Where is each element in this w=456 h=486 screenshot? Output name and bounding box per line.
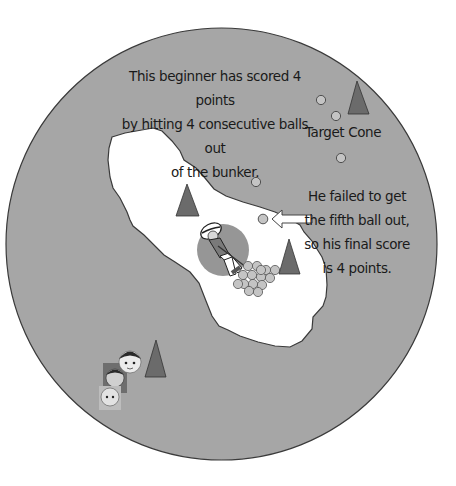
caption-failed-line-1: He failed to get [298, 184, 416, 208]
caption-scored-line-3: of the bunker. [110, 160, 320, 184]
ball-out-3 [336, 153, 345, 162]
caption-failed-line-4: is 4 points. [298, 256, 416, 280]
caption-failed: He failed to get the fifth ball out, so … [298, 184, 416, 280]
caption-failed-line-3: so his final score [298, 232, 416, 256]
caption-failed-line-2: the fifth ball out, [298, 208, 416, 232]
bunker-drill-diagram: This beginner has scored 4 points by hit… [0, 0, 456, 486]
failed-ball [258, 214, 268, 224]
target-cone-label: Target Cone [298, 120, 388, 144]
caption-scored-line-2: by hitting 4 consecutive balls out [110, 112, 320, 160]
caption-scored-line-1: This beginner has scored 4 points [110, 64, 320, 112]
caption-scored: This beginner has scored 4 points by hit… [110, 64, 320, 184]
